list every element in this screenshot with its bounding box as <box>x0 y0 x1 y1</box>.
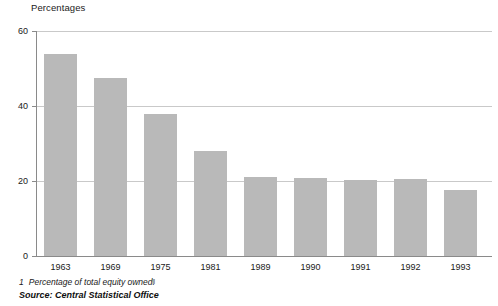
y-tick-label: 60 <box>2 26 28 36</box>
page-artifact-mark: ‖ <box>152 277 155 286</box>
bar <box>194 151 227 256</box>
y-tick-label: 0 <box>2 251 28 261</box>
bar-chart-figure: Percentages 0204060 19631969197519811989… <box>0 0 498 306</box>
x-axis-line <box>36 256 492 257</box>
x-tick-label: 1963 <box>36 262 86 272</box>
plot-area <box>36 31 492 256</box>
bar <box>294 178 327 256</box>
bar <box>94 78 127 256</box>
source-label: Source: Central Statistical Office <box>19 290 159 300</box>
y-tick-label: 40 <box>2 101 28 111</box>
bar <box>244 177 277 256</box>
footnote-marker: 1 <box>19 277 24 287</box>
bar <box>144 114 177 257</box>
x-tick-label: 1981 <box>186 262 236 272</box>
bar <box>344 180 377 256</box>
y-tick-label: 20 <box>2 176 28 186</box>
chart-title: Percentages <box>31 2 85 13</box>
x-tick-label: 1975 <box>136 262 186 272</box>
footnote: 1Percentage of total equity owned. <box>19 277 155 287</box>
x-tick-label: 1969 <box>86 262 136 272</box>
bar <box>444 190 477 256</box>
x-tick-label: 1990 <box>286 262 336 272</box>
x-tick-label: 1989 <box>236 262 286 272</box>
x-tick-label: 1993 <box>436 262 486 272</box>
bar <box>394 179 427 256</box>
bar <box>44 54 77 257</box>
x-tick-label: 1992 <box>386 262 436 272</box>
x-tick-label: 1991 <box>336 262 386 272</box>
footnote-text: Percentage of total equity owned. <box>29 277 155 287</box>
y-tick-mark <box>32 256 37 257</box>
